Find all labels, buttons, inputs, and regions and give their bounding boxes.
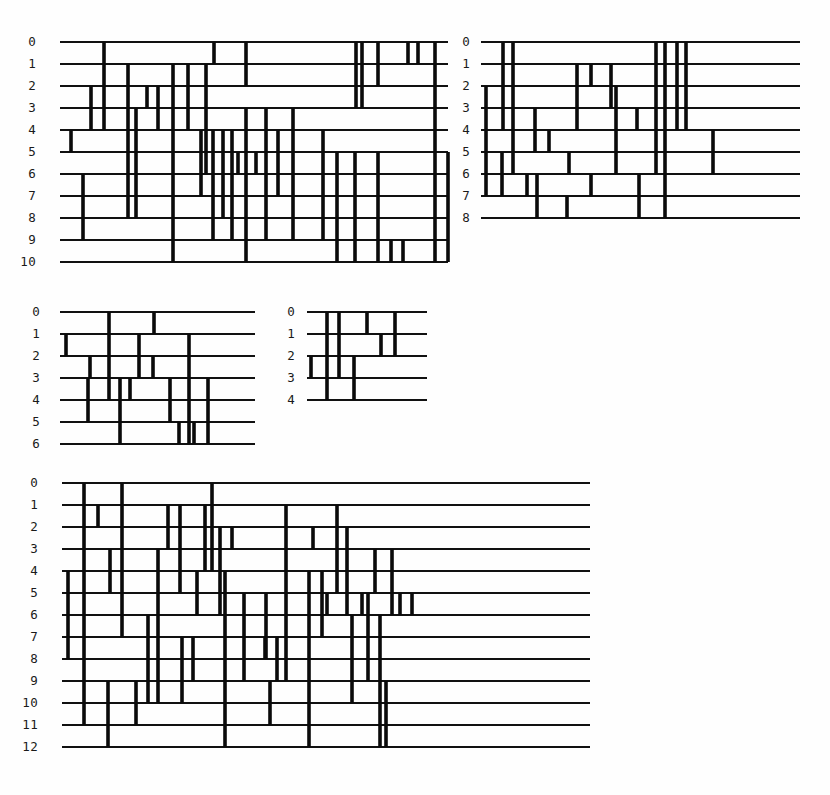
- row-label: 2: [444, 80, 470, 93]
- row-label: 4: [10, 124, 36, 137]
- row-label: 10: [12, 697, 38, 710]
- figure-canvas: 0123456789100123456780123456012340123456…: [0, 0, 830, 795]
- row-label: 2: [10, 80, 36, 93]
- panel-top-right: [481, 42, 800, 218]
- row-label: 1: [14, 328, 40, 341]
- row-label: 3: [14, 372, 40, 385]
- panel-mid-right: [307, 312, 427, 400]
- row-label: 7: [12, 631, 38, 644]
- row-label: 6: [444, 168, 470, 181]
- row-label: 5: [10, 146, 36, 159]
- row-label: 0: [269, 306, 295, 319]
- row-label: 7: [444, 190, 470, 203]
- row-label: 4: [269, 394, 295, 407]
- row-label: 9: [10, 234, 36, 247]
- row-label: 0: [10, 36, 36, 49]
- row-label: 1: [12, 499, 38, 512]
- row-label: 6: [14, 438, 40, 451]
- row-label: 7: [10, 190, 36, 203]
- row-label: 8: [444, 212, 470, 225]
- row-label: 9: [12, 675, 38, 688]
- row-label: 3: [444, 102, 470, 115]
- row-label: 0: [12, 477, 38, 490]
- panel-top-left: [60, 42, 448, 262]
- row-label: 2: [14, 350, 40, 363]
- panel-bottom: [62, 483, 590, 747]
- row-label: 2: [12, 521, 38, 534]
- row-label: 5: [444, 146, 470, 159]
- row-label: 8: [10, 212, 36, 225]
- row-label: 6: [10, 168, 36, 181]
- row-label: 8: [12, 653, 38, 666]
- row-label: 1: [10, 58, 36, 71]
- row-label: 0: [444, 36, 470, 49]
- row-label: 0: [14, 306, 40, 319]
- row-label: 5: [12, 587, 38, 600]
- row-label: 4: [444, 124, 470, 137]
- row-label: 10: [10, 256, 36, 269]
- row-label: 4: [12, 565, 38, 578]
- row-label: 2: [269, 350, 295, 363]
- row-label: 1: [269, 328, 295, 341]
- row-label: 1: [444, 58, 470, 71]
- row-label: 3: [269, 372, 295, 385]
- row-label: 6: [12, 609, 38, 622]
- panel-mid-left: [60, 312, 255, 444]
- row-label: 12: [12, 741, 38, 754]
- row-label: 5: [14, 416, 40, 429]
- row-label: 3: [12, 543, 38, 556]
- row-label: 4: [14, 394, 40, 407]
- row-label: 3: [10, 102, 36, 115]
- row-label: 11: [12, 719, 38, 732]
